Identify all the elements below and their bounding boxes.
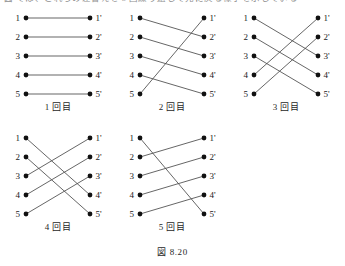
permutation-panel-3: 11'22'33'44'55'3 回目 bbox=[232, 8, 340, 120]
left-node-5 bbox=[138, 92, 143, 97]
left-node-label-2: 2 bbox=[130, 32, 135, 42]
edge-5-to-1p bbox=[140, 18, 204, 94]
right-node-label-1: 1' bbox=[96, 13, 103, 23]
left-node-label-1: 1 bbox=[244, 13, 249, 23]
right-node-4 bbox=[202, 193, 207, 198]
left-node-label-5: 5 bbox=[244, 89, 249, 99]
left-node-label-1: 1 bbox=[130, 133, 135, 143]
panel-caption-2: 2 回目 bbox=[118, 100, 226, 113]
left-node-3 bbox=[252, 54, 257, 59]
left-node-label-2: 2 bbox=[244, 32, 249, 42]
edge-1-to-2p bbox=[140, 18, 204, 37]
left-node-label-2: 2 bbox=[16, 32, 21, 42]
left-node-2 bbox=[138, 155, 143, 160]
right-node-5 bbox=[202, 212, 207, 217]
left-node-3 bbox=[24, 54, 29, 59]
right-node-1 bbox=[316, 16, 321, 21]
left-node-label-5: 5 bbox=[130, 89, 135, 99]
left-node-5 bbox=[252, 92, 257, 97]
edge-4-to-2p bbox=[26, 157, 90, 195]
left-node-label-5: 5 bbox=[130, 209, 135, 219]
left-node-label-4: 4 bbox=[130, 70, 135, 80]
right-node-3 bbox=[202, 54, 207, 59]
right-node-5 bbox=[88, 92, 93, 97]
left-node-1 bbox=[138, 136, 143, 141]
right-node-3 bbox=[88, 54, 93, 59]
left-node-1 bbox=[252, 16, 257, 21]
right-node-label-4: 4' bbox=[324, 70, 331, 80]
right-node-label-3: 3' bbox=[210, 171, 217, 181]
cut-off-header-text: 図 では、これらの差替えを 5 回繰り返して元に戻る様子を示している bbox=[4, 0, 341, 3]
edge-2-to-5p bbox=[26, 157, 90, 214]
left-node-2 bbox=[24, 155, 29, 160]
permutation-graph-4: 11'22'33'44'55' bbox=[4, 128, 112, 224]
left-node-label-3: 3 bbox=[16, 171, 21, 181]
right-node-5 bbox=[202, 92, 207, 97]
left-node-1 bbox=[138, 16, 143, 21]
permutation-panel-4: 11'22'33'44'55'4 回目 bbox=[4, 128, 112, 240]
left-node-1 bbox=[24, 136, 29, 141]
edge-4-to-1p bbox=[254, 18, 318, 75]
right-node-label-4: 4' bbox=[210, 190, 217, 200]
right-node-label-3: 3' bbox=[210, 51, 217, 61]
edge-2-to-1p bbox=[140, 138, 204, 157]
left-node-label-3: 3 bbox=[130, 51, 135, 61]
left-node-label-5: 5 bbox=[16, 89, 21, 99]
left-node-label-4: 4 bbox=[130, 190, 135, 200]
right-node-1 bbox=[202, 136, 207, 141]
edge-4-to-5p bbox=[140, 75, 204, 94]
right-node-label-4: 4' bbox=[96, 190, 103, 200]
left-node-3 bbox=[24, 174, 29, 179]
right-node-label-3: 3' bbox=[324, 51, 331, 61]
right-node-label-1: 1' bbox=[210, 133, 217, 143]
right-node-5 bbox=[316, 92, 321, 97]
right-node-4 bbox=[88, 193, 93, 198]
left-node-label-2: 2 bbox=[16, 152, 21, 162]
edge-3-to-2p bbox=[140, 157, 204, 176]
left-node-label-3: 3 bbox=[16, 51, 21, 61]
edge-1-to-4p bbox=[26, 138, 90, 195]
panel-caption-5: 5 回目 bbox=[118, 220, 226, 233]
right-node-label-5: 5' bbox=[96, 209, 103, 219]
left-node-5 bbox=[138, 212, 143, 217]
right-node-label-2: 2' bbox=[210, 152, 217, 162]
left-node-3 bbox=[138, 174, 143, 179]
left-node-4 bbox=[138, 193, 143, 198]
edge-5-to-4p bbox=[140, 195, 204, 214]
left-node-label-5: 5 bbox=[16, 209, 21, 219]
edge-2-to-3p bbox=[140, 37, 204, 56]
left-node-label-4: 4 bbox=[244, 70, 249, 80]
figure-caption: 図 8.20 bbox=[0, 245, 345, 258]
left-node-label-1: 1 bbox=[130, 13, 135, 23]
right-node-3 bbox=[88, 174, 93, 179]
right-node-label-3: 3' bbox=[96, 171, 103, 181]
right-node-2 bbox=[316, 35, 321, 40]
figure-page: 図 では、これらの差替えを 5 回繰り返して元に戻る様子を示している 11'22… bbox=[0, 0, 345, 266]
edge-5-to-2p bbox=[254, 37, 318, 94]
left-node-4 bbox=[138, 73, 143, 78]
left-node-3 bbox=[138, 54, 143, 59]
right-node-label-1: 1' bbox=[96, 133, 103, 143]
right-node-1 bbox=[88, 136, 93, 141]
panel-caption-3: 3 回目 bbox=[232, 100, 340, 113]
left-node-label-4: 4 bbox=[16, 70, 21, 80]
left-node-4 bbox=[24, 193, 29, 198]
right-node-4 bbox=[88, 73, 93, 78]
permutation-panel-1: 11'22'33'44'55'1 回目 bbox=[4, 8, 112, 120]
right-node-label-5: 5' bbox=[324, 89, 331, 99]
right-node-label-4: 4' bbox=[210, 70, 217, 80]
left-node-5 bbox=[24, 92, 29, 97]
left-node-2 bbox=[138, 35, 143, 40]
permutation-graph-3: 11'22'33'44'55' bbox=[232, 8, 340, 104]
edge-3-to-1p bbox=[26, 138, 90, 176]
left-node-label-3: 3 bbox=[130, 171, 135, 181]
right-node-4 bbox=[316, 73, 321, 78]
right-node-label-5: 5' bbox=[210, 89, 217, 99]
right-node-label-5: 5' bbox=[210, 209, 217, 219]
right-node-3 bbox=[316, 54, 321, 59]
right-node-4 bbox=[202, 73, 207, 78]
left-node-4 bbox=[252, 73, 257, 78]
edge-1-to-3p bbox=[254, 18, 318, 56]
permutation-graph-2: 11'22'33'44'55' bbox=[118, 8, 226, 104]
left-node-label-1: 1 bbox=[16, 133, 21, 143]
